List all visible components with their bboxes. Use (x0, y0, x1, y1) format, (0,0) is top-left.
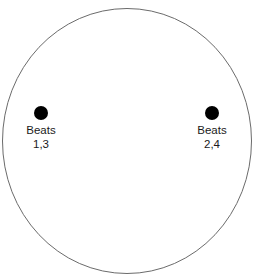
beat-label-numbers: 1,3 (3, 138, 79, 152)
beat-marker-2-4: Beats 2,4 (174, 106, 250, 151)
beat-marker-label-1-3: Beats 1,3 (3, 124, 79, 151)
beat-marker-1-3: Beats 1,3 (3, 106, 79, 151)
diagram-canvas: Beats 1,3 Beats 2,4 (0, 0, 264, 278)
beat-dot-icon (205, 106, 219, 120)
beat-label-word: Beats (3, 124, 79, 138)
beat-label-word: Beats (174, 124, 250, 138)
beat-label-numbers: 2,4 (174, 138, 250, 152)
beat-dot-icon (34, 106, 48, 120)
beat-marker-label-2-4: Beats 2,4 (174, 124, 250, 151)
